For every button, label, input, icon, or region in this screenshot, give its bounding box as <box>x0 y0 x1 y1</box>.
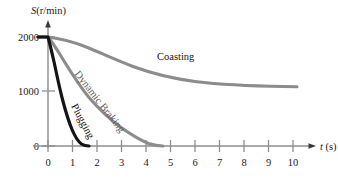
x-axis-title-variable: t <box>320 141 324 152</box>
x-axis: 0 1 2 3 4 5 6 7 8 9 10 t(s) <box>33 140 337 168</box>
x-tick-label-5: 5 <box>168 157 173 168</box>
x-tick-label-4: 4 <box>143 157 149 168</box>
x-tick-label-3: 3 <box>119 157 124 168</box>
chart-figure: 2000 1000 0 S(r/min) 0 1 2 3 4 5 <box>0 0 338 182</box>
y-tick-label-1000: 1000 <box>18 86 39 97</box>
x-axis-arrowhead <box>309 143 317 149</box>
x-axis-title-units: (s) <box>325 141 337 153</box>
x-tick-label-8: 8 <box>241 157 246 168</box>
x-tick-label-10: 10 <box>288 157 299 168</box>
x-tick-label-6: 6 <box>192 157 197 168</box>
x-tick-label-0: 0 <box>45 157 50 168</box>
x-tick-label-7: 7 <box>217 157 222 168</box>
x-tick-label-1: 1 <box>70 157 75 168</box>
chart-svg: 2000 1000 0 S(r/min) 0 1 2 3 4 5 <box>0 0 338 182</box>
y-axis-title: S(r/min) <box>31 5 66 17</box>
y-axis-arrowhead <box>45 20 51 28</box>
y-tick-label-2000: 2000 <box>18 32 39 43</box>
x-tick-label-2: 2 <box>94 157 99 168</box>
x-axis-title: t(s) <box>320 141 337 153</box>
y-axis-title-units: (r/min) <box>36 5 66 17</box>
coasting-label: Coasting <box>157 51 195 62</box>
x-tick-label-9: 9 <box>266 157 271 168</box>
